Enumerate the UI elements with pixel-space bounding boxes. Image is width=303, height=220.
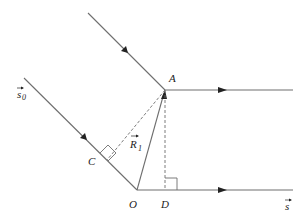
- point-label-D: D: [160, 198, 169, 210]
- R1-vector-arrow-head: [136, 135, 139, 138]
- vector-label-R1: R 1: [129, 135, 142, 154]
- s0-main: s: [17, 88, 21, 100]
- vector-label-s: s: [285, 199, 292, 213]
- s-vector-arrow-head: [289, 199, 292, 202]
- diffraction-geometry-diagram: A O D C R 1 s 0 s: [0, 0, 303, 220]
- s-main: s: [285, 200, 289, 212]
- point-label-A: A: [168, 72, 176, 84]
- R1-subscript: 1: [138, 144, 142, 153]
- vector-label-s0: s 0: [17, 87, 26, 103]
- R1-main: R: [129, 138, 137, 150]
- s0-vector-arrow-head: [21, 87, 24, 90]
- incident-ray-lower: [24, 78, 137, 190]
- point-label-C: C: [88, 155, 96, 167]
- right-angle-marker-D: [165, 178, 177, 190]
- arrow-icon-scattered-upper: [218, 87, 227, 93]
- right-angle-marker-C: [100, 145, 116, 161]
- s0-subscript: 0: [22, 93, 26, 102]
- point-label-O: O: [129, 198, 137, 210]
- arrow-icon-scattered-lower: [218, 187, 227, 193]
